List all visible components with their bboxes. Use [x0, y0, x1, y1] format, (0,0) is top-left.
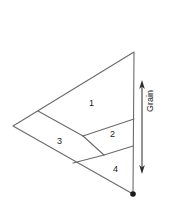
region-label-3: 3 [57, 137, 62, 146]
diagram-canvas [0, 0, 169, 205]
region-label-4: 4 [113, 165, 118, 174]
divider-region1-region2 [83, 119, 134, 136]
divider-junction-link [83, 136, 104, 155]
grain-direction-label: Grain [146, 90, 155, 112]
divider-upper-left [38, 111, 83, 136]
grain-arrow [139, 80, 145, 174]
bottom-vertex-dot [130, 191, 136, 197]
divider-region3-region4 [73, 155, 104, 163]
divider-region2-region4 [104, 146, 133, 155]
region-label-2: 2 [110, 130, 115, 139]
geometric-figure: 1 2 3 4 Grain [0, 0, 169, 205]
region-label-1: 1 [89, 99, 94, 108]
